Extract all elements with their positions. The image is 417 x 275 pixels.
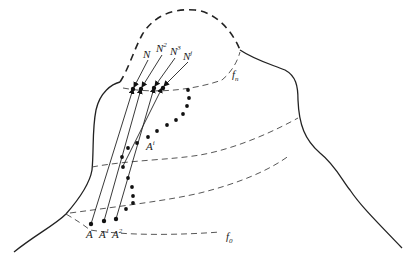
label-Nj: Nj <box>182 49 192 62</box>
label-N2: N2 <box>155 41 167 54</box>
trajectory-Ai-Nj <box>122 88 162 168</box>
label-N: N <box>142 48 151 60</box>
arrow-N <box>134 60 148 87</box>
point-A2 <box>114 217 118 221</box>
label-A1: A1 <box>98 227 109 240</box>
trajectory-A2-N3 <box>116 88 154 219</box>
label-A2: A2 <box>111 227 123 240</box>
point-A1 <box>102 219 106 223</box>
level-curve-fn <box>123 52 240 91</box>
point-A <box>89 222 93 226</box>
label-Ai: Ai <box>145 139 155 152</box>
label-fn: fn <box>232 68 239 83</box>
left-boundary-curve <box>14 82 120 252</box>
mountain-level-set-diagram: fn f0 N N2 N3 Nj A A1 A2 Ai <box>0 0 417 275</box>
trajectory-A-N <box>91 89 133 224</box>
point-N <box>131 87 135 91</box>
label-f0: f0 <box>226 230 233 245</box>
label-N3: N3 <box>169 44 181 57</box>
point-Nj <box>161 86 165 90</box>
right-boundary-curve <box>240 50 402 248</box>
label-A: A <box>85 228 93 240</box>
trajectory-A1-N2 <box>104 89 141 221</box>
point-N3 <box>152 86 156 90</box>
arrow-Nj <box>164 62 188 86</box>
dotted-sequence-lower <box>124 176 135 211</box>
point-N2 <box>139 87 143 91</box>
level-curve-middle-upper <box>92 118 298 167</box>
